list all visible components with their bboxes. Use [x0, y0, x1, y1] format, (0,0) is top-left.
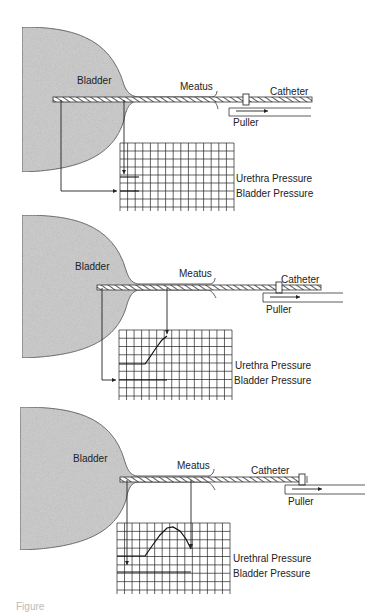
- panel-stage-1: Bladder Meatus Catheter Puller Urethra P…: [22, 27, 314, 211]
- catheter-clamp: [243, 94, 249, 105]
- meatus-label: Meatus: [180, 81, 213, 92]
- urethral-pressure-profile-figure: Bladder Meatus Catheter Puller Urethra P…: [0, 0, 381, 612]
- meatus-label: Meatus: [177, 460, 210, 471]
- panel-stage-3: Bladder Meatus Catheter Puller Urethral …: [20, 407, 365, 594]
- bladder-pressure-label: Bladder Pressure: [236, 188, 314, 199]
- catheter-label: Catheter: [281, 274, 320, 285]
- panel-stage-2: Bladder Meatus Catheter Puller Urethra P…: [22, 215, 343, 400]
- chart-grid: [117, 523, 230, 594]
- urethra-pressure-label: Urethra Pressure: [236, 173, 313, 184]
- urethra-pressure-label: Urethral Pressure: [233, 553, 312, 564]
- catheter-clamp: [299, 474, 305, 485]
- catheter-label: Catheter: [270, 86, 309, 97]
- catheter-tube: [53, 97, 312, 102]
- puller-track: [263, 293, 343, 302]
- catheter-tube: [120, 477, 302, 482]
- urethra-wall-lower: [140, 290, 216, 298]
- meatus-label: Meatus: [179, 268, 212, 279]
- puller-track: [285, 485, 365, 494]
- bladder-label: Bladder: [75, 261, 110, 272]
- figure-caption-fragment: Figure: [16, 601, 44, 612]
- bladder-pressure-label: Bladder Pressure: [233, 568, 311, 579]
- puller-label: Puller: [233, 117, 259, 128]
- catheter-clamp: [276, 282, 282, 293]
- puller-track: [229, 108, 311, 116]
- bladder-label: Bladder: [77, 75, 112, 86]
- puller-label: Puller: [266, 304, 292, 315]
- chart-grid: [119, 330, 232, 400]
- urethra-wall-lower: [138, 482, 215, 490]
- puller-label: Puller: [288, 496, 314, 507]
- bladder-label: Bladder: [73, 453, 108, 464]
- catheter-tube: [97, 285, 321, 290]
- urethra-pressure-label: Urethra Pressure: [235, 360, 312, 371]
- bladder-pressure-label: Bladder Pressure: [234, 375, 312, 386]
- catheter-label: Catheter: [251, 465, 290, 476]
